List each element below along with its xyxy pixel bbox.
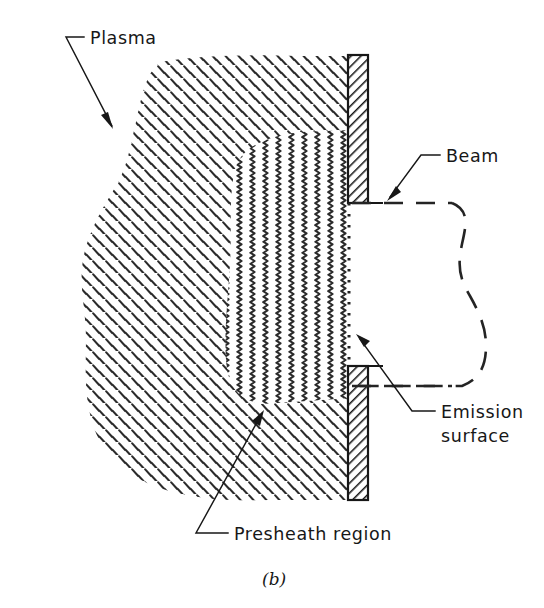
label-presheath: Presheath region [234, 524, 392, 544]
label-plasma: Plasma [90, 28, 157, 48]
region-presheath [215, 120, 365, 415]
label-emission-surface-line2: surface [441, 426, 510, 446]
label-emission-surface-line1: Emission [441, 402, 524, 422]
figure-root: Plasma Beam Emission surface Presheath r… [0, 0, 544, 608]
electrode-upper-hatch [348, 55, 368, 203]
presheath-zigzag-fill [215, 120, 365, 415]
label-beam: Beam [446, 146, 499, 166]
figure-caption: (b) [262, 569, 286, 589]
plasma-beam-diagram: Plasma Beam Emission surface Presheath r… [0, 0, 544, 608]
